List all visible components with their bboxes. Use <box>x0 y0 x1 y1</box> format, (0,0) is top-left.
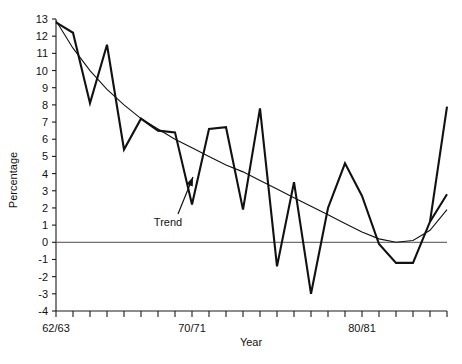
trend-annotation-label: Trend <box>154 216 182 228</box>
y-tick-label: -2 <box>38 271 48 283</box>
chart-background <box>0 0 462 364</box>
y-tick-label: 8 <box>42 99 48 111</box>
y-tick-label: 9 <box>42 82 48 94</box>
x-tick-label: 80/81 <box>348 322 376 334</box>
y-tick-label: 12 <box>36 30 48 42</box>
y-tick-label: -4 <box>38 305 48 317</box>
y-tick-label: 10 <box>36 65 48 77</box>
y-tick-label: 3 <box>42 185 48 197</box>
y-tick-label: 6 <box>42 133 48 145</box>
y-tick-label: 4 <box>42 168 48 180</box>
x-tick-label: 62/63 <box>42 322 70 334</box>
y-tick-label: -3 <box>38 288 48 300</box>
y-tick-label: 1 <box>42 219 48 231</box>
x-axis-title: Year <box>240 336 263 348</box>
y-tick-label: 7 <box>42 116 48 128</box>
y-axis-title: Percentage <box>7 152 19 208</box>
y-tick-label: 0 <box>42 236 48 248</box>
y-tick-label: 11 <box>37 47 48 59</box>
y-tick-label: -1 <box>38 253 48 265</box>
y-tick-label: 13 <box>36 13 48 25</box>
line-chart: 131211109876543210-1-2-3-4 62/6370/7180/… <box>0 0 462 364</box>
y-tick-label: 5 <box>42 150 48 162</box>
y-tick-label: 2 <box>42 202 48 214</box>
x-tick-label: 70/71 <box>178 322 206 334</box>
chart-canvas: 131211109876543210-1-2-3-4 62/6370/7180/… <box>0 0 462 364</box>
